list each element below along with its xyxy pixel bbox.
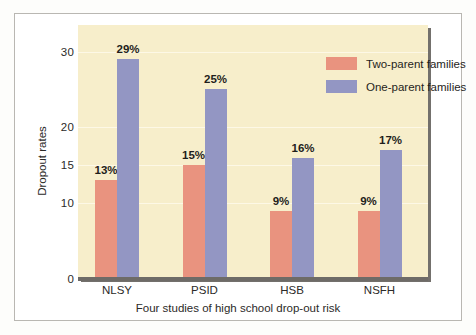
legend: Two-parent familiesOne-parent families xyxy=(326,54,476,100)
bar xyxy=(380,150,402,279)
bar-value-label: 29% xyxy=(116,43,139,55)
legend-label: Two-parent families xyxy=(366,58,466,70)
bar-value-label: 17% xyxy=(379,134,402,146)
bar xyxy=(205,89,227,279)
x-tick-label: NLSY xyxy=(102,284,132,296)
x-tick-label: NSFH xyxy=(364,284,395,296)
legend-item: One-parent families xyxy=(326,77,476,96)
y-tick-label: 30 xyxy=(14,46,74,58)
legend-swatch xyxy=(326,80,357,93)
x-axis-title: Four studies of high school drop-out ris… xyxy=(0,302,476,314)
legend-label: One-parent families xyxy=(366,81,466,93)
figure-canvas: 13%29%15%25%9%16%9%17% Two-parent famili… xyxy=(0,0,476,335)
bar-value-label: 15% xyxy=(182,149,205,161)
x-tick-label: HSB xyxy=(280,284,304,296)
legend-item: Two-parent families xyxy=(326,54,476,73)
plot-area: 13%29%15%25%9%16%9%17% Two-parent famili… xyxy=(78,25,428,279)
bar xyxy=(358,211,380,279)
bar-value-label: 16% xyxy=(291,142,314,154)
bar xyxy=(183,165,205,279)
x-tick-label: PSID xyxy=(191,284,218,296)
bar-value-label: 9% xyxy=(273,195,290,207)
legend-swatch xyxy=(326,57,357,70)
bar-value-label: 25% xyxy=(204,73,227,85)
bar xyxy=(117,59,139,279)
bar xyxy=(292,158,314,279)
y-tick-label: 0 xyxy=(14,273,74,285)
x-axis-baseline xyxy=(78,277,428,281)
bar-value-label: 9% xyxy=(360,195,377,207)
y-axis-title: Dropout rates xyxy=(36,101,48,221)
bar-value-label: 13% xyxy=(94,164,117,176)
bar xyxy=(95,180,117,279)
bar xyxy=(270,211,292,279)
